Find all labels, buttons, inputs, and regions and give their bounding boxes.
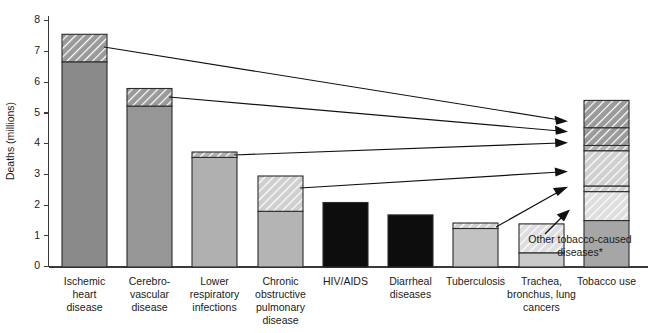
y-tick-label-7: 7 <box>34 44 40 56</box>
stack-segment-ischemic-heart-disease <box>584 100 629 128</box>
cat-label-line: Trachea, <box>521 275 562 287</box>
y-axis: 0 1 2 3 4 5 6 7 8 Deaths (millions) <box>4 13 49 271</box>
y-axis-title: Deaths (millions) <box>4 102 16 180</box>
cat-label-line: cancers <box>523 301 560 313</box>
stack-segment-chronic-obstructive-pulmonary-disease <box>584 151 629 186</box>
cat-label-line: infections <box>192 301 236 313</box>
stack-segment-lower-respiratory-infections <box>584 146 629 151</box>
cat-label-line: Tobacco use <box>577 275 636 287</box>
cat-label-line: Ischemic <box>64 275 105 287</box>
bar-base-segment <box>62 62 107 267</box>
cat-label-line: Diarrheal <box>389 275 432 287</box>
stack-segment-cerebrovascular-disease <box>584 128 629 146</box>
bar-tobacco-segment <box>453 223 498 229</box>
y-tick-label-8: 8 <box>34 13 40 25</box>
y-tick-label-5: 5 <box>34 106 40 118</box>
y-tick-label-2: 2 <box>34 198 40 210</box>
cat-label-line: bronchus, lung <box>507 288 576 300</box>
bar-cerebrovascular-disease <box>127 89 172 268</box>
bar-hiv-aids <box>323 203 368 268</box>
cat-label-line: Chronic <box>262 275 298 287</box>
cat-label-tuberculosis: Tuberculosis <box>446 275 505 287</box>
cat-label-line: Lower <box>200 275 229 287</box>
bar-lower-respiratory-infections <box>192 152 237 267</box>
cat-label-line: disease <box>131 301 167 313</box>
cat-label-line: Tuberculosis <box>446 275 505 287</box>
cat-label-line: disease <box>262 314 298 326</box>
x-axis-category-labels: Ischemic heart disease Cerebro- vascular… <box>64 275 636 326</box>
bar-tuberculosis <box>453 223 498 267</box>
arrow-lower-respiratory-to-stack <box>234 138 568 155</box>
arrow-ischemic-to-stack <box>104 47 568 125</box>
stack-segment-trachea-bronchus-lung-cancers <box>584 192 629 221</box>
cat-label-line: respiratory <box>190 288 240 300</box>
y-tick-label-1: 1 <box>34 229 40 241</box>
bar-diarrheal-diseases <box>388 215 433 267</box>
cat-label-line: pulmonary <box>256 301 306 313</box>
annotation-line-1: Other tobacco-caused <box>528 233 631 245</box>
arrow-copd-to-stack <box>300 167 568 188</box>
bar-base-segment <box>388 215 433 267</box>
cat-label-line: disease <box>66 301 102 313</box>
cat-label-line: HIV/AIDS <box>323 275 368 287</box>
bar-tobacco-segment <box>258 176 303 211</box>
bar-chronic-obstructive-pulmonary-disease <box>258 176 303 267</box>
bar-base-segment <box>453 229 498 268</box>
annotation-line-2: diseases* <box>557 246 603 258</box>
cat-label-cerebrovascular-disease: Cerebro- vascular disease <box>129 275 171 313</box>
cat-label-line: obstructive <box>255 288 306 300</box>
cat-label-tobacco-use: Tobacco use <box>577 275 636 287</box>
cat-label-diarrheal-diseases: Diarrheal diseases <box>389 275 432 300</box>
y-tick-label-3: 3 <box>34 167 40 179</box>
y-tick-label-4: 4 <box>34 136 40 148</box>
chart-container: 0 1 2 3 4 5 6 7 8 Deaths (millions) <box>0 0 664 333</box>
cat-label-line: Cerebro- <box>129 275 171 287</box>
y-tick-label-6: 6 <box>34 75 40 87</box>
cat-label-line: vascular <box>130 288 170 300</box>
cat-label-chronic-obstructive-pulmonary-disease: Chronic obstructive pulmonary disease <box>255 275 306 326</box>
bar-tobacco-segment <box>62 34 107 62</box>
cat-label-hiv-aids: HIV/AIDS <box>323 275 368 287</box>
bar-base-segment <box>192 157 237 267</box>
bar-ischemic-heart-disease <box>62 34 107 267</box>
bar-base-segment <box>258 211 303 267</box>
bar-base-segment <box>127 106 172 267</box>
bar-tobacco-segment <box>192 152 237 157</box>
cat-label-lower-respiratory-infections: Lower respiratory infections <box>190 275 240 313</box>
cat-label-trachea-bronchus-lung-cancers: Trachea, bronchus, lung cancers <box>507 275 576 313</box>
cat-label-line: diseases <box>390 288 431 300</box>
y-tick-label-0: 0 <box>34 259 40 271</box>
arrow-cerebrovascular-to-stack <box>169 97 568 135</box>
deaths-bar-chart: 0 1 2 3 4 5 6 7 8 Deaths (millions) <box>0 0 664 333</box>
bar-base-segment <box>323 203 368 268</box>
stack-segment-tuberculosis <box>584 186 629 192</box>
cat-label-line: heart <box>73 288 97 300</box>
cat-label-ischemic-heart-disease: Ischemic heart disease <box>64 275 105 313</box>
bar-tobacco-segment <box>127 89 172 107</box>
